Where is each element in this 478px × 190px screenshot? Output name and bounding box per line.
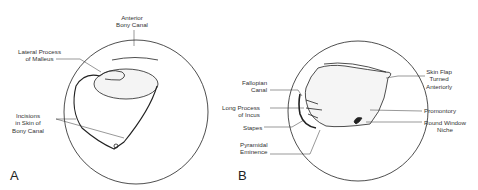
panel-a-otoscope-circle (64, 40, 208, 184)
label-skin-flap: Skin Flap Turned Anteriorly (426, 68, 452, 90)
label-lateral-process-of-malleus: Lateral Process of Malleus (18, 48, 61, 63)
panel-b-drawing (288, 41, 428, 181)
label-fallopian-canal: Fallopian Canal (242, 79, 267, 94)
label-anterior-bony-canal: Anterior Bony Canal (116, 14, 148, 29)
label-round-window-niche: Round Window Niche (424, 119, 466, 134)
panel-a-drawing (64, 40, 208, 184)
panel-letter-b: B (238, 168, 247, 183)
label-long-process-of-incus: Long Process of Incus (222, 104, 260, 119)
panel-letter-a: A (10, 168, 19, 183)
label-promontory: Promontory (424, 107, 456, 114)
label-pyramidal-eminence: Pyramidal Eminence (240, 141, 268, 156)
skin-flap-promontory (305, 65, 391, 126)
label-incisions-in-skin: Incisions in Skin of Bony Canal (12, 112, 44, 134)
label-stapes: Stapes (243, 124, 262, 131)
diagram-canvas (0, 0, 478, 190)
anterior-canal-arc (112, 58, 158, 61)
